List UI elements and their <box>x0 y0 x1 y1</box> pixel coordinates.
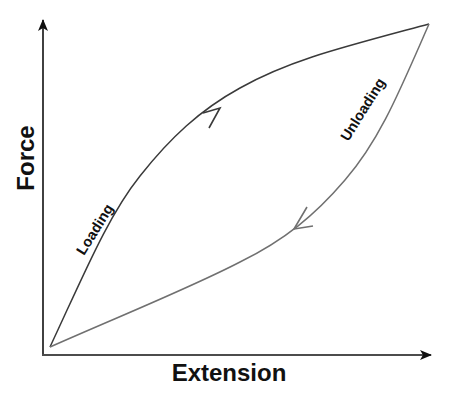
unloading-direction-arrow-icon <box>294 207 313 229</box>
unloading-label: Unloading <box>337 75 388 144</box>
loading-curve <box>50 24 429 347</box>
x-axis-label: Extension <box>172 359 287 386</box>
loading-label: Loading <box>73 201 116 257</box>
y-axis-label: Force <box>12 125 39 190</box>
unloading-curve <box>50 24 429 347</box>
hysteresis-diagram: Force Extension Loading Unloading <box>0 0 451 400</box>
